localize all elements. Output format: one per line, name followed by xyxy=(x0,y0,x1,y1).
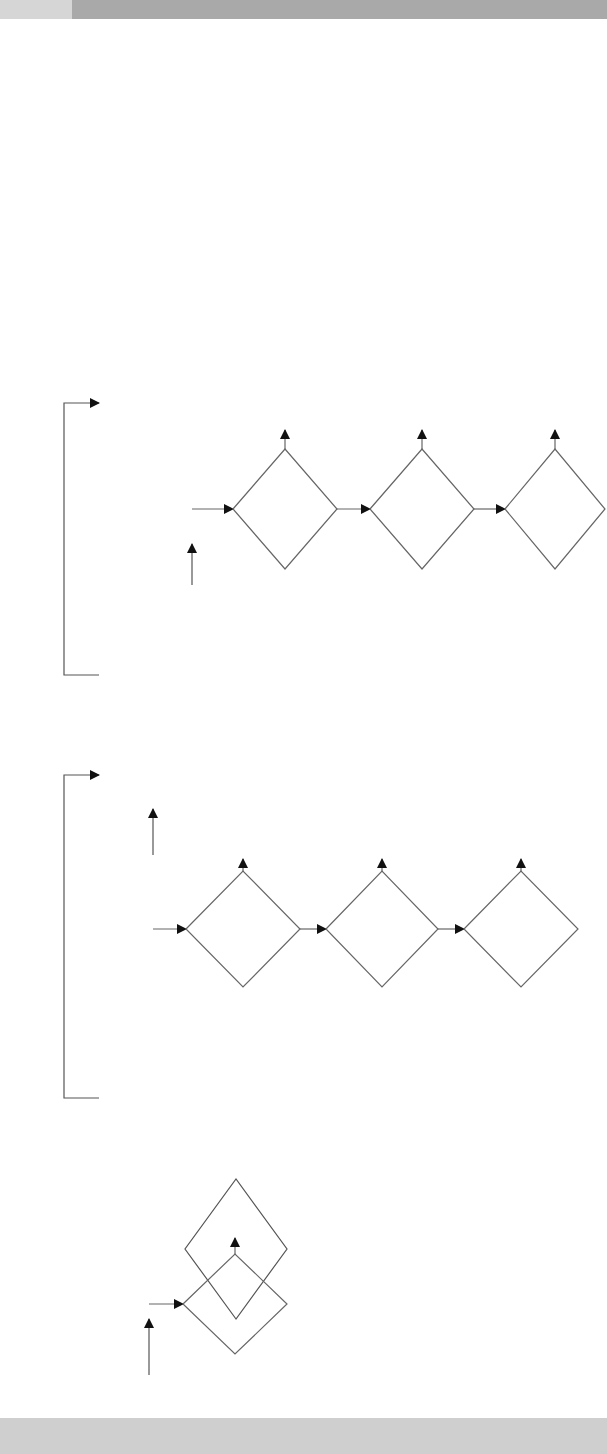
flowchart-canvas xyxy=(0,0,607,1454)
flowchart-geometry xyxy=(0,0,607,1454)
